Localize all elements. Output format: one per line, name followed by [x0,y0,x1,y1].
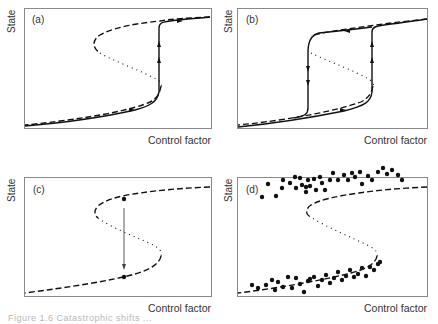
data-point [312,177,316,181]
data-point [306,178,310,182]
lower-stable-branch [238,86,373,125]
panel-c: State (c) Control factor [0,150,219,324]
lower-stable-branch [25,86,161,125]
data-point [316,284,320,288]
data-point [390,168,394,172]
data-point [381,166,385,170]
state-dot-upper [122,197,126,201]
data-point [328,178,332,182]
data-point [320,181,324,185]
data-point [264,283,268,287]
arrow-down-icon [306,80,310,86]
data-point [270,278,274,282]
data-point [360,182,364,186]
data-point [318,175,322,179]
data-point [336,270,340,274]
data-point [276,280,280,284]
data-point [342,173,346,177]
x-axis-label: Control factor [148,134,211,146]
state-dot-lower [122,275,126,279]
data-point [273,288,277,292]
data-point [294,186,298,190]
trajectory-curve [25,17,210,126]
data-point [281,285,285,289]
data-point [364,274,368,278]
data-point [314,188,318,192]
unstable-branch [100,53,161,86]
data-point [286,275,290,279]
data-point [368,265,372,269]
arrow-up-icon [157,57,161,63]
data-point [266,182,270,186]
panel-d: State (d) Control factor [219,150,438,324]
data-point [320,278,324,282]
data-point [356,272,360,276]
data-point [260,195,264,199]
trajectory-loop-return [294,27,372,118]
data-point [256,286,260,290]
arrow-down-icon [306,66,310,72]
unstable-branch [309,216,377,256]
upper-stable-branch [94,17,210,53]
data-point [294,276,298,280]
data-point [340,278,344,282]
x-axis-label: Control factor [364,134,427,146]
perturbation-plot [0,150,219,324]
fold-curve-plot [0,0,219,150]
scatter-points [250,166,404,294]
arrow-down-icon [122,264,126,270]
data-point [348,268,352,272]
data-point [370,178,374,182]
panel-b: State (b) Control factor [219,0,438,150]
data-point [378,260,382,264]
figure-caption: Figure 1.6 Catastrophic shifts ... [8,313,438,324]
data-point [308,184,312,188]
arrow-up-icon [370,57,374,63]
data-point [324,273,328,277]
data-point [350,171,354,175]
data-point [304,190,308,194]
scatter-plot [219,150,438,324]
data-point [298,176,302,180]
data-point [372,268,376,272]
arrow-up-icon [157,41,161,47]
upper-stable-branch [95,187,210,218]
data-point [346,178,350,182]
data-point [312,275,316,279]
trajectory-loop [238,19,427,127]
hysteresis-loop-plot [219,0,438,150]
data-point [298,282,302,286]
data-point [344,274,348,278]
data-point [376,170,380,174]
data-point [304,185,308,189]
unstable-branch [311,53,373,86]
data-point [290,286,294,290]
data-point [323,188,327,192]
data-point [400,178,404,182]
data-point [328,281,332,285]
data-point [293,175,297,179]
data-point [300,183,304,187]
lower-stable-branch [25,256,161,293]
arrow-up-icon [370,41,374,47]
data-point [385,172,389,176]
data-point [352,275,356,279]
data-point [308,277,312,281]
data-point [288,181,292,185]
data-point [250,283,254,287]
data-point [358,170,362,174]
data-point [274,194,278,198]
data-point [366,174,370,178]
data-point [302,290,306,294]
data-point [280,186,284,190]
data-point [281,178,285,182]
unstable-branch [98,218,161,256]
data-point [336,178,340,182]
data-point [360,266,364,270]
data-point [331,171,335,175]
data-point [353,175,357,179]
data-point [332,276,336,280]
panel-a: State (a) Control factor [0,0,219,150]
data-point [396,173,400,177]
